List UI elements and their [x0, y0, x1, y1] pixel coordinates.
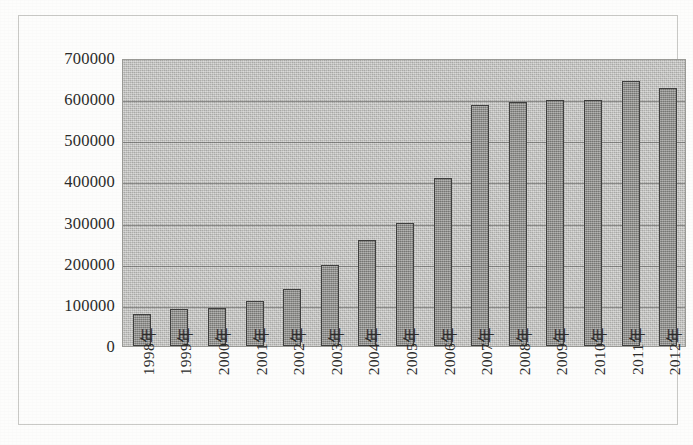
- x-axis-tick-text: 2005年: [404, 327, 420, 376]
- x-axis-tick-label: 2007年: [469, 349, 489, 441]
- y-axis-tick-label: 300000: [23, 216, 115, 233]
- x-axis-tick-text: 2008年: [517, 327, 533, 376]
- x-axis-tick-text: 2006年: [442, 327, 458, 376]
- plot-area: [122, 59, 686, 347]
- x-axis-tick-text: 2003年: [329, 327, 345, 376]
- bar: [434, 178, 452, 346]
- x-axis-tick-text: 2009年: [554, 327, 570, 376]
- x-axis-tick-text: 1998年: [141, 327, 157, 376]
- bar: [509, 102, 527, 346]
- x-axis-tick-text: 2012年: [667, 327, 683, 376]
- x-axis-tick-label: 2006年: [432, 349, 452, 441]
- x-axis-tick-label: 2008年: [507, 349, 527, 441]
- x-axis-tick-text: 2002年: [291, 327, 307, 376]
- bar: [622, 81, 640, 346]
- y-axis-tick-label: 600000: [23, 92, 115, 109]
- bar: [546, 100, 564, 346]
- x-axis-tick-text: 2004年: [366, 327, 382, 376]
- x-axis-tick-label: 2009年: [544, 349, 564, 441]
- x-axis-tick-label: 1999年: [168, 349, 188, 441]
- y-axis-tick-label: 700000: [23, 51, 115, 68]
- x-axis-tick-label: 2012年: [657, 349, 677, 441]
- y-axis-tick-label: 500000: [23, 133, 115, 150]
- bar: [584, 100, 602, 346]
- x-axis-tick-label: 1998年: [131, 349, 151, 441]
- x-axis-tick-text: 2007年: [479, 327, 495, 376]
- x-axis-tick-label: 2010年: [582, 349, 602, 441]
- bar: [471, 105, 489, 346]
- y-axis-tick-label: 100000: [23, 298, 115, 315]
- x-axis-tick-text: 1999年: [178, 327, 194, 376]
- x-axis-tick-text: 2011年: [630, 327, 646, 375]
- x-axis-tick-label: 2005年: [394, 349, 414, 441]
- chart-frame: 7000006000005000004000003000002000001000…: [18, 15, 678, 425]
- bar: [659, 88, 677, 346]
- scanned-page: 7000006000005000004000003000002000001000…: [0, 0, 693, 445]
- x-axis-tick-label: 2003年: [319, 349, 339, 441]
- x-axis: 1998年1999年2000年2001年2002年2003年2004年2005年…: [122, 349, 686, 444]
- y-axis-tick-label: 200000: [23, 257, 115, 274]
- y-axis-tick-label: 400000: [23, 174, 115, 191]
- x-axis-tick-text: 2001年: [254, 327, 270, 376]
- y-axis-tick-label: 0: [23, 339, 115, 356]
- x-axis-tick-label: 2002年: [281, 349, 301, 441]
- y-axis: 7000006000005000004000003000002000001000…: [19, 59, 115, 347]
- x-axis-tick-label: 2001年: [244, 349, 264, 441]
- x-axis-tick-label: 2000年: [206, 349, 226, 441]
- x-axis-tick-text: 2010年: [592, 327, 608, 376]
- x-axis-tick-label: 2004年: [356, 349, 376, 441]
- x-axis-tick-label: 2011年: [620, 349, 640, 441]
- x-axis-tick-text: 2000年: [216, 327, 232, 376]
